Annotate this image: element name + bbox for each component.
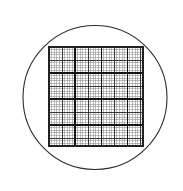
- reticle-figure: Microscope eyepiece reticle with square …: [0, 0, 183, 191]
- paper-background: [0, 0, 183, 191]
- reticle-drawing: [0, 0, 183, 191]
